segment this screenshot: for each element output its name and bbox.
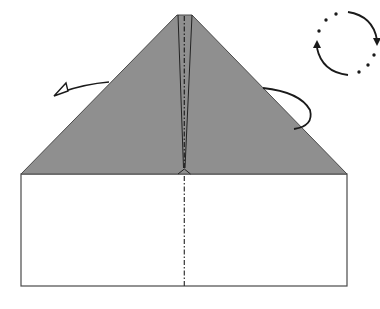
origami-diagram (0, 0, 380, 309)
left-fold-arrow-icon (62, 82, 109, 92)
left-arrowhead-icon (54, 83, 68, 96)
rotate-icon (313, 12, 380, 75)
